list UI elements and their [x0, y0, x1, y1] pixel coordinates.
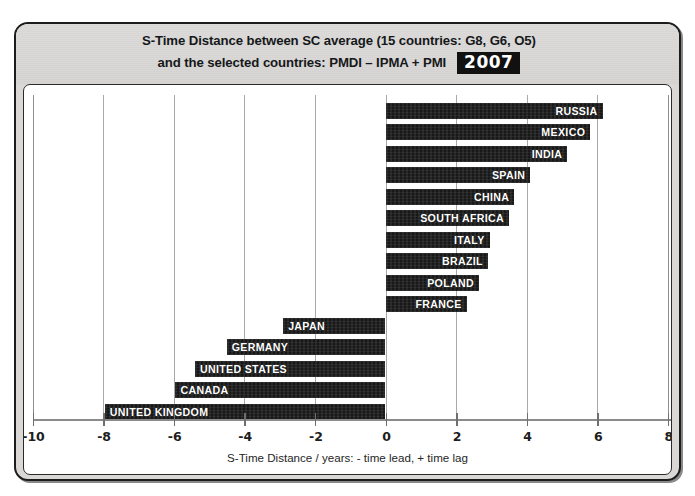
x-axis-caption: S-Time Distance / years: - time lead, + …	[24, 451, 671, 464]
chart-title-line-1: S-Time Distance between SC average (15 c…	[16, 31, 662, 51]
x-tick-0	[386, 413, 388, 426]
x-tick-2	[456, 413, 458, 426]
x-tick-label-8: 8	[665, 429, 672, 444]
bar-russia: RUSSIA	[386, 103, 603, 119]
bar-brazil: BRAZIL	[386, 253, 488, 269]
year-badge: 2007	[457, 52, 520, 74]
bar-label-united-kingdom: UNITED KINGDOM	[110, 404, 208, 420]
x-tick-label-neg10: -10	[23, 429, 45, 444]
x-tick-label-neg2: -2	[309, 429, 323, 444]
chart-page: S-Time Distance between SC average (15 c…	[0, 0, 695, 496]
bar-canada: CANADA	[175, 382, 385, 398]
bar-label-france: FRANCE	[415, 296, 461, 312]
bar-south-africa: SOUTH AFRICA	[386, 210, 510, 226]
bar-poland: POLAND	[386, 275, 480, 291]
bar-france: FRANCE	[386, 296, 467, 312]
bar-label-germany: GERMANY	[232, 339, 289, 355]
chart-title-line-2-row: and the selected countries: PMDI – IPMA …	[16, 52, 662, 74]
plot-panel: RUSSIAMEXICOINDIASPAINCHINASOUTH AFRICAI…	[23, 84, 672, 475]
bar-united-states: UNITED STATES	[195, 361, 386, 377]
x-tick-neg10	[33, 413, 35, 426]
chart-title-block: S-Time Distance between SC average (15 c…	[16, 31, 662, 51]
x-tick-8	[668, 413, 670, 426]
bar-label-spain: SPAIN	[492, 167, 525, 183]
bar-japan: JAPAN	[283, 318, 385, 334]
bar-label-south-africa: SOUTH AFRICA	[420, 210, 504, 226]
x-tick-label-neg4: -4	[238, 429, 252, 444]
bar-label-mexico: MEXICO	[541, 124, 585, 140]
bar-label-italy: ITALY	[454, 232, 485, 248]
x-tick-neg2	[315, 413, 317, 426]
x-tick-label-2: 2	[453, 429, 462, 444]
bar-label-japan: JAPAN	[288, 318, 325, 334]
x-axis-line	[33, 419, 673, 421]
chart-outer-frame: S-Time Distance between SC average (15 c…	[14, 22, 681, 481]
x-tick-label-0: 0	[382, 429, 391, 444]
bar-india: INDIA	[386, 146, 568, 162]
bar-label-united-states: UNITED STATES	[200, 361, 287, 377]
x-tick-label-4: 4	[523, 429, 532, 444]
bar-china: CHINA	[386, 189, 515, 205]
bar-label-poland: POLAND	[427, 275, 474, 291]
x-tick-label-neg8: -8	[97, 429, 111, 444]
x-tick-neg8	[103, 413, 105, 426]
bar-label-russia: RUSSIA	[555, 103, 597, 119]
bar-italy: ITALY	[386, 232, 490, 248]
x-tick-neg4	[244, 413, 246, 426]
x-tick-6	[597, 413, 599, 426]
x-tick-4	[527, 413, 529, 426]
bar-label-canada: CANADA	[180, 382, 228, 398]
bar-label-india: INDIA	[532, 146, 563, 162]
x-tick-label-neg6: -6	[168, 429, 182, 444]
bar-series: RUSSIAMEXICOINDIASPAINCHINASOUTH AFRICAI…	[24, 85, 671, 474]
bar-label-brazil: BRAZIL	[442, 253, 483, 269]
bar-germany: GERMANY	[227, 339, 386, 355]
x-tick-label-6: 6	[594, 429, 603, 444]
chart-title-line-2: and the selected countries: PMDI – IPMA …	[158, 53, 447, 73]
bar-label-china: CHINA	[474, 189, 509, 205]
bar-spain: SPAIN	[386, 167, 531, 183]
bar-mexico: MEXICO	[386, 124, 591, 140]
x-tick-neg6	[174, 413, 176, 426]
